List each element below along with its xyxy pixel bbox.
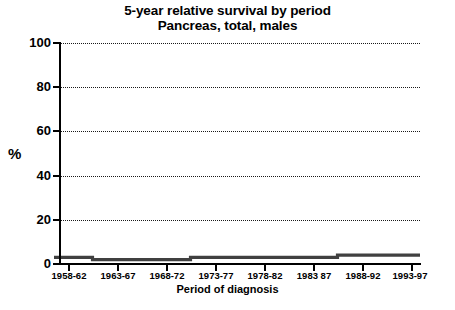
y-tick-mark-0 <box>53 263 59 265</box>
x-tick-label-1968-72: 1968-72 <box>150 270 185 281</box>
chart-subtitle: Pancreas, total, males <box>0 18 455 33</box>
y-tick-mark-20 <box>53 219 59 221</box>
y-axis-line <box>59 42 61 265</box>
x-tick-label-1978-82: 1978-82 <box>248 270 283 281</box>
y-tick-label-100: 100 <box>5 36 51 49</box>
y-tick-label-80: 80 <box>5 80 51 93</box>
y-tick-label-20: 20 <box>5 213 51 226</box>
x-tick-label-1983-87: 1983 87 <box>297 270 331 281</box>
chart-title-block: 5-year relative survival by period Pancr… <box>0 3 455 33</box>
chart-title: 5-year relative survival by period <box>0 3 455 18</box>
y-tick-mark-40 <box>53 175 59 177</box>
x-axis-title: Period of diagnosis <box>0 283 455 296</box>
x-tick-label-1988-92: 1988-92 <box>346 270 381 281</box>
x-tick-label-1993-97: 1993-97 <box>393 270 428 281</box>
plot-area <box>61 43 420 264</box>
y-tick-label-60: 60 <box>5 124 51 137</box>
y-tick-label-40: 40 <box>5 169 51 182</box>
x-tick-label-1963-67: 1963-67 <box>101 270 136 281</box>
x-axis-line <box>59 263 421 265</box>
y-tick-mark-80 <box>53 86 59 88</box>
y-tick-mark-60 <box>53 130 59 132</box>
chart-container: 5-year relative survival by period Pancr… <box>0 0 455 310</box>
y-axis-label: % <box>8 146 21 161</box>
x-tick-label-1973-77: 1973-77 <box>199 270 234 281</box>
x-tick-label-1958-62: 1958-62 <box>52 270 87 281</box>
y-tick-label-0: 0 <box>5 257 51 270</box>
y-tick-mark-100 <box>53 42 59 44</box>
series-line-pancreas-total-males <box>61 43 420 264</box>
